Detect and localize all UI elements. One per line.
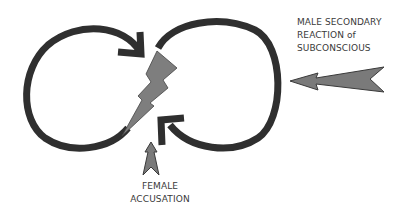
male-label-line-2: REACTION of — [297, 29, 382, 42]
lightning-bolt-icon — [122, 51, 177, 136]
right-loop-arrow-icon — [158, 22, 278, 148]
male-label-line-1: MALE SECONDARY — [297, 16, 382, 29]
male-label-line-3: SUBCONSCIOUS — [297, 42, 382, 55]
male-arrow-left-icon — [290, 67, 384, 92]
female-label-line-2: ACCUSATION — [127, 193, 193, 206]
male-secondary-reaction-label: MALE SECONDARY REACTION of SUBCONSCIOUS — [297, 16, 382, 55]
female-label-line-1: FEMALE — [127, 180, 193, 193]
female-accusation-label: FEMALE ACCUSATION — [127, 180, 193, 206]
left-loop-arrow-icon — [27, 29, 141, 148]
female-arrow-up-icon — [143, 142, 159, 175]
